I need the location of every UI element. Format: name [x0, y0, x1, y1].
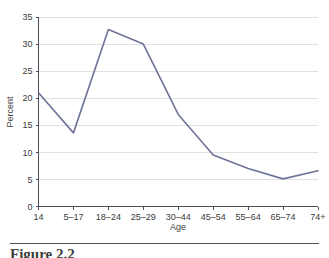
data-series-line	[39, 29, 319, 178]
x-tick-label: 45–54	[201, 212, 226, 222]
chart-svg: 05101520253035 145–1718–2425–2930–4445–5…	[0, 0, 329, 233]
y-tick-label: 10	[22, 148, 32, 158]
x-tick-label: 25–29	[131, 212, 156, 222]
y-tick-label: 0	[27, 202, 32, 212]
x-tick-label: 5–17	[63, 212, 83, 222]
y-tick-label: 25	[22, 66, 32, 76]
y-tick-label: 20	[22, 93, 32, 103]
x-tick-label: 65–74	[271, 212, 296, 222]
y-axis-title: Percent	[5, 96, 15, 128]
x-tick-label: 30–44	[166, 212, 191, 222]
figure-container: 05101520253035 145–1718–2425–2930–4445–5…	[0, 0, 329, 258]
line-chart: 05101520253035 145–1718–2425–2930–4445–5…	[0, 0, 329, 233]
figure-caption: Figure 2.2	[10, 246, 319, 258]
y-tick-label: 35	[22, 12, 32, 22]
x-tick-labels: 145–1718–2425–2930–4445–5455–6465–7474+	[33, 212, 325, 222]
x-tick-label: 55–64	[236, 212, 261, 222]
y-tick-label: 15	[22, 120, 32, 130]
y-tick-label: 5	[27, 175, 32, 185]
y-tick-labels: 05101520253035	[22, 12, 32, 212]
x-axis-title: Age	[170, 222, 186, 232]
gridlines	[39, 17, 319, 179]
caption-divider	[10, 243, 319, 244]
y-tick-label: 30	[22, 39, 32, 49]
x-tick-label: 14	[33, 212, 43, 222]
x-tick-label: 18–24	[96, 212, 121, 222]
x-tick-label: 74+	[310, 212, 325, 222]
